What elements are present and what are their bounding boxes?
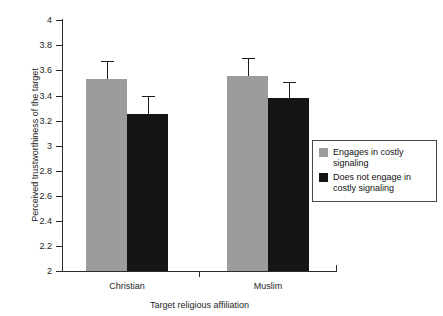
bar-muslim-engages [227,76,268,271]
y-axis-tick-label: 2.2 [39,242,52,251]
y-axis-tick-label: 3.8 [39,41,52,50]
error-bar-stem [248,58,249,76]
error-bar-stem [148,96,149,114]
x-axis-title: Target religious affiliation [62,300,337,310]
y-axis-tick-label: 3.2 [39,117,52,126]
error-bar-muslim-does-not-engage [268,82,309,98]
bar-chart-figure: 4 3.8 3.6 3.4 3.2 3 2.8 2.6 2.4 2.2 2 Pe… [0,0,443,316]
legend-swatch-icon [319,173,328,182]
y-axis-title: Perceived trustworthiness of the target [30,30,40,260]
y-axis-tick-label: 2 [47,267,52,276]
error-bar-stem [289,82,290,98]
y-axis-tick-label: 4 [47,16,52,25]
y-axis-tick-label: 2.6 [39,192,52,201]
legend-label: Does not engage in costly signaling [333,172,435,194]
y-axis-tick-label: 3 [47,142,52,151]
error-bar-christian-engages [86,61,127,79]
legend-swatch-icon [319,148,328,157]
x-axis-label-muslim: Muslim [227,281,309,291]
y-axis-tick-label: 3.6 [39,66,52,75]
error-bar-cap-top [283,82,296,83]
y-axis-tick-label: 3.4 [39,92,52,101]
error-bar-cap-top [142,96,155,97]
plot-area [62,20,329,271]
error-bar-christian-does-not-engage [127,96,168,114]
legend-item-does-not-engage: Does not engage in costly signaling [319,172,435,194]
x-axis-label-christian: Christian [86,281,168,291]
x-axis-tick-end [336,265,337,272]
y-axis-tick-label: 2.4 [39,217,52,226]
y-axis-tick [56,271,62,272]
error-bar-cap-top [101,61,114,62]
bar-christian-does-not-engage [127,114,168,271]
error-bar-muslim-engages [227,58,268,76]
y-axis-tick-label: 2.8 [39,167,52,176]
error-bar-cap-top [242,58,255,59]
legend-item-engages: Engages in costly signaling [319,147,435,169]
legend: Engages in costly signaling Does not eng… [312,140,437,202]
legend-label: Engages in costly signaling [333,147,435,169]
error-bar-stem [107,61,108,79]
bar-muslim-does-not-engage [268,98,309,271]
x-axis-tick [199,272,200,277]
bar-christian-engages [86,79,127,271]
